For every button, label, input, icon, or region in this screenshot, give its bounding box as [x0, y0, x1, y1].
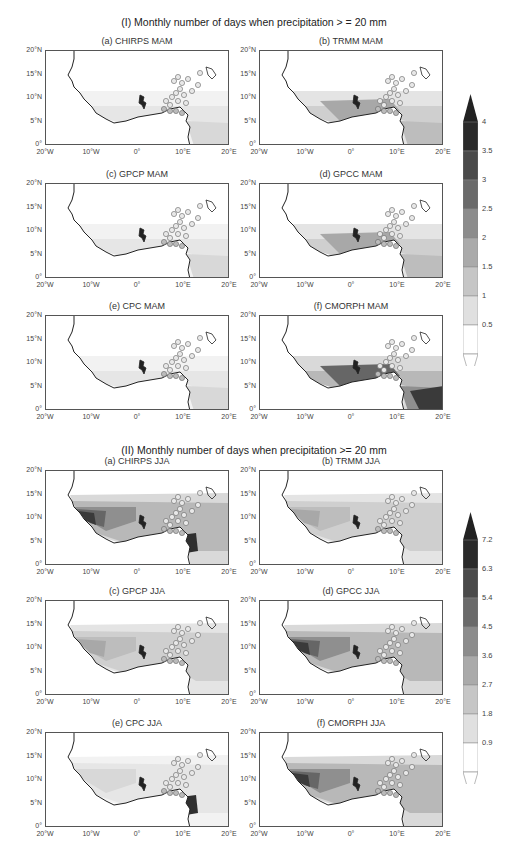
x-tick-label: 20°W — [244, 830, 274, 837]
y-tick-label: 5°N — [226, 382, 256, 389]
precip-map — [260, 471, 443, 565]
station-marker — [181, 642, 186, 647]
station-marker — [163, 363, 168, 368]
station-marker — [189, 353, 194, 358]
station-marker — [389, 756, 394, 761]
station-marker — [389, 648, 394, 653]
station-marker — [177, 636, 182, 641]
station-marker — [385, 628, 390, 633]
panel-title: (f) CMORPH MAM — [259, 301, 443, 311]
y-tick-label: 20°N — [226, 728, 256, 735]
station-marker — [375, 526, 380, 531]
station-marker — [181, 774, 186, 779]
colorbar-tick-label: 3.5 — [482, 146, 492, 155]
y-tick-label: 20°N — [226, 596, 256, 603]
station-marker — [409, 502, 414, 507]
station-marker — [377, 231, 382, 236]
colorbar-tick-label: 1.5 — [482, 262, 492, 271]
x-tick-label: 20°E — [428, 568, 458, 575]
station-marker — [169, 94, 174, 99]
x-tick-label: 20°W — [244, 148, 274, 155]
map-panel — [259, 470, 443, 565]
station-marker — [181, 92, 186, 97]
station-marker — [183, 782, 188, 787]
station-marker — [387, 510, 392, 515]
map-panel — [45, 183, 229, 278]
station-marker — [183, 365, 188, 370]
station-marker — [179, 345, 184, 350]
y-tick-label: 5°N — [12, 667, 42, 674]
station-marker — [189, 221, 194, 226]
y-tick-label: 5°N — [12, 799, 42, 806]
map-panel — [45, 470, 229, 565]
station-marker — [403, 770, 408, 775]
panel-title: (a) CHIRPS JJA — [45, 456, 229, 466]
y-tick-label: 15°N — [226, 752, 256, 759]
x-tick-label: 20°W — [244, 698, 274, 705]
panel-title: (d) GPCC JJA — [259, 586, 443, 596]
y-tick-label: 15°N — [226, 70, 256, 77]
panel-title: (f) CMORPH JJA — [259, 718, 443, 728]
station-marker — [381, 108, 386, 113]
x-tick-label: 20°E — [214, 413, 244, 420]
y-tick-label: 10°N — [226, 513, 256, 520]
station-marker — [375, 106, 380, 111]
y-tick-label: 0° — [12, 140, 42, 147]
colorbar — [463, 94, 478, 366]
y-tick-label: 0° — [226, 273, 256, 280]
y-tick-label: 5°N — [12, 117, 42, 124]
station-marker — [397, 100, 402, 105]
station-marker — [173, 790, 178, 795]
colorbar-tick-label: 0.5 — [482, 320, 492, 329]
station-marker — [387, 790, 392, 795]
station-marker — [387, 640, 392, 645]
station-marker — [195, 82, 200, 87]
station-marker — [395, 774, 400, 779]
panel-title: (d) GPCC MAM — [259, 169, 443, 179]
y-tick-label: 0° — [12, 560, 42, 567]
station-marker — [389, 74, 394, 79]
y-tick-label: 20°N — [226, 179, 256, 186]
station-marker — [169, 359, 174, 364]
station-marker — [399, 496, 404, 501]
y-tick-label: 0° — [226, 405, 256, 412]
station-marker — [185, 341, 190, 346]
y-tick-label: 15°N — [226, 620, 256, 627]
station-marker — [197, 490, 202, 495]
station-marker — [175, 363, 180, 368]
station-marker — [163, 231, 168, 236]
precip-map — [46, 471, 229, 565]
station-marker — [389, 207, 394, 212]
x-tick-label: 10°W — [76, 698, 106, 705]
map-panel — [45, 50, 229, 145]
y-tick-label: 0° — [12, 690, 42, 697]
station-marker — [173, 241, 178, 246]
section-title: (I) Monthly number of days when precipit… — [0, 16, 508, 28]
station-marker — [383, 359, 388, 364]
station-marker — [399, 76, 404, 81]
station-marker — [397, 520, 402, 525]
station-marker — [161, 656, 166, 661]
x-tick-label: 20°W — [30, 568, 60, 575]
station-marker — [393, 375, 398, 380]
station-marker — [173, 772, 178, 777]
x-tick-label: 10°E — [168, 698, 198, 705]
colorbar — [463, 512, 478, 784]
station-marker — [377, 780, 382, 785]
station-marker — [377, 518, 382, 523]
x-tick-label: 20°W — [30, 698, 60, 705]
station-marker — [391, 351, 396, 356]
station-marker — [175, 231, 180, 236]
station-marker — [179, 243, 184, 248]
y-tick-label: 10°N — [12, 643, 42, 650]
y-tick-label: 5°N — [226, 799, 256, 806]
station-marker — [385, 78, 390, 83]
station-marker — [189, 508, 194, 513]
station-marker — [197, 335, 202, 340]
x-tick-label: 20°E — [428, 830, 458, 837]
station-marker — [399, 758, 404, 763]
x-tick-label: 0° — [336, 568, 366, 575]
x-tick-label: 10°E — [382, 148, 412, 155]
x-tick-label: 10°E — [168, 148, 198, 155]
map-panel — [259, 600, 443, 695]
